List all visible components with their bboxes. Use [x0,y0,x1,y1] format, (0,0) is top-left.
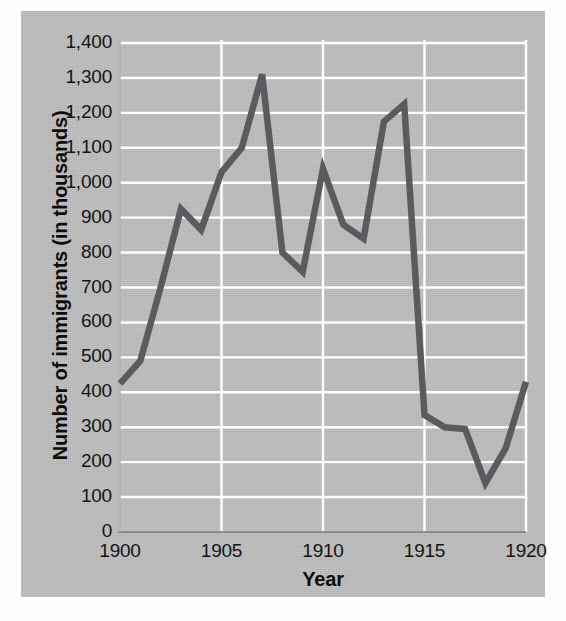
y-tick-label: 1,400 [38,31,112,53]
x-tick-label: 1900 [82,540,158,562]
y-tick-label: 0 [38,520,112,542]
x-axis-title: Year [120,568,526,591]
x-tick-label: 1905 [184,540,260,562]
x-tick-label: 1910 [285,540,361,562]
y-axis-title: Number of immigrants (in thousands) [49,76,72,496]
x-tick-label: 1915 [387,540,463,562]
chart-figure: 01002003004005006007008009001,0001,1001,… [0,0,566,621]
x-tick-label: 1920 [488,540,564,562]
chart-plot-panel [21,11,545,597]
